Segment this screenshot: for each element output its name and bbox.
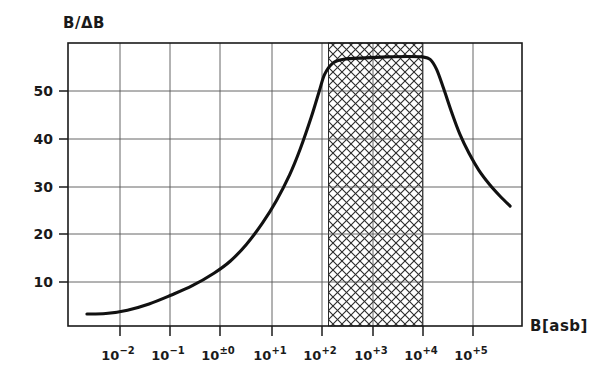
x-axis-ticks: [120, 326, 473, 336]
x-tick-labels: 10−2 10−1 10±0 10+1 10+2 10+3 10+4 10+5: [101, 345, 487, 363]
xtick-label-1: 10−2: [101, 345, 134, 363]
ytick-label-20: 20: [34, 226, 54, 242]
y-axis-ticks: [59, 91, 68, 282]
xtick-label-4: 10+1: [253, 345, 286, 363]
xtick-label-3: 10±0: [201, 345, 234, 363]
plot-background: [68, 43, 522, 326]
xtick-label-5: 10+2: [303, 345, 336, 363]
chart-svg: 50 40 30 20 10 10−2 10−1 10±0 10+1 10+2: [0, 0, 616, 384]
y-axis-title: B/ΔB: [63, 14, 105, 32]
shaded-band-group: [329, 43, 423, 326]
ytick-label-10: 10: [34, 274, 54, 290]
xtick-label-2: 10−1: [151, 345, 184, 363]
y-tick-labels: 50 40 30 20 10: [34, 83, 54, 290]
ytick-label-40: 40: [34, 131, 54, 147]
ytick-label-30: 30: [34, 179, 54, 195]
photopic-range-band: [329, 43, 423, 326]
xtick-label-7: 10+4: [404, 345, 437, 363]
x-axis-title: B[asb]: [530, 317, 588, 335]
xtick-label-6: 10+3: [354, 345, 387, 363]
chart-figure: 50 40 30 20 10 10−2 10−1 10±0 10+1 10+2: [0, 0, 616, 384]
xtick-label-8: 10+5: [454, 345, 487, 363]
ytick-label-50: 50: [34, 83, 54, 99]
